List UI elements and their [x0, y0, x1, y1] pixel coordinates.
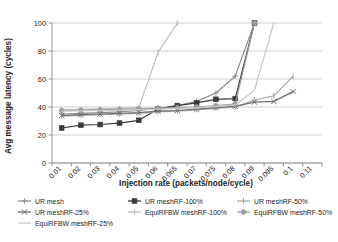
legend-label: UR meshRF-100% — [145, 198, 203, 205]
data-point-marker — [136, 106, 141, 111]
y-tick-label: 40 — [38, 103, 46, 112]
data-point-marker — [214, 97, 219, 102]
series-2 — [62, 74, 293, 119]
line-chart: 020406080100 0.010.020.030.040.050.060.0… — [0, 0, 338, 242]
legend-label: UR mesh — [35, 198, 64, 205]
series-6 — [62, 23, 274, 111]
chart-figure: 020406080100 0.010.020.030.040.050.060.0… — [0, 0, 338, 242]
legend-item-2[interactable]: UR meshRF-50% — [237, 198, 308, 205]
x-tick-label: 0.09 — [240, 164, 256, 180]
y-tick-label: 60 — [38, 75, 46, 84]
chart-legend: UR meshUR meshRF-100%UR meshRF-50%UR mes… — [18, 198, 332, 228]
data-point-marker — [79, 123, 84, 128]
x-tick-label: 0.11 — [298, 164, 314, 180]
y-tick-label: 100 — [34, 19, 46, 28]
series-line — [62, 23, 274, 111]
series-0 — [59, 21, 257, 117]
axis-lines — [49, 23, 323, 167]
data-point-marker — [117, 107, 122, 112]
x-tick-label: 0.07 — [182, 164, 198, 180]
legend-label: UR meshRF-25% — [35, 209, 89, 216]
x-axis-title: Injection rate (packets/node/cycle) — [119, 179, 253, 188]
data-point-marker — [291, 89, 296, 94]
x-tick-label: 0.05 — [124, 164, 140, 180]
data-point-marker — [156, 106, 161, 111]
legend-label: UR meshRF-50% — [254, 198, 308, 205]
legend-label: EquiRFBW meshRF-50% — [254, 209, 332, 217]
legend-label: EquiRFBW meshRF-100% — [145, 209, 227, 217]
x-tick-label: 0.095 — [256, 164, 275, 183]
data-point-marker — [136, 118, 141, 123]
legend-item-3[interactable]: UR meshRF-25% — [18, 209, 89, 216]
data-point-marker — [241, 210, 246, 215]
grid-lines — [52, 23, 322, 163]
data-point-marker — [132, 199, 137, 204]
x-tick-label: 0.04 — [105, 164, 121, 180]
x-tick-label: 0.08 — [220, 164, 236, 180]
data-point-marker — [98, 122, 103, 127]
x-tick-label: 0.06 — [143, 164, 159, 180]
series-line — [62, 23, 255, 114]
y-tick-label: 20 — [38, 131, 46, 140]
data-point-marker — [175, 105, 180, 110]
series-line — [62, 23, 255, 111]
data-point-marker — [79, 108, 84, 113]
legend-item-5[interactable]: EquiRFBW meshRF-50% — [237, 209, 332, 217]
y-tick-labels: 020406080100 — [34, 19, 46, 168]
y-axis-title: Avg message latency (cycles) — [4, 38, 13, 154]
legend-label: EquiRFBW meshRF-25% — [35, 220, 113, 228]
data-point-marker — [59, 126, 64, 131]
data-point-marker — [59, 108, 64, 113]
y-tick-label: 80 — [38, 47, 46, 56]
x-tick-label: 0.01 — [47, 164, 63, 180]
legend-item-4[interactable]: EquiRFBW meshRF-100% — [128, 209, 227, 217]
data-point-marker — [117, 121, 122, 126]
data-point-marker — [252, 21, 257, 26]
legend-item-1[interactable]: UR meshRF-100% — [128, 198, 203, 205]
data-point-marker — [98, 107, 103, 112]
data-series — [59, 21, 295, 131]
data-point-marker — [22, 199, 27, 204]
series-4 — [62, 21, 178, 113]
x-tick-label: 0.03 — [85, 164, 101, 180]
legend-item-6[interactable]: EquiRFBW meshRF-25% — [18, 220, 113, 228]
y-tick-label: 0 — [42, 159, 46, 168]
series-line — [62, 23, 178, 110]
legend-item-0[interactable]: UR mesh — [18, 198, 64, 205]
x-tick-label: 0.02 — [66, 164, 82, 180]
